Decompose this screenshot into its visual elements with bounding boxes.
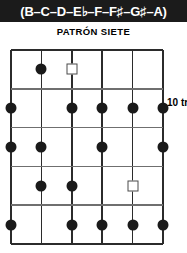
note-marker-f2-s5 (127, 103, 138, 114)
note-marker-f2-s1 (6, 103, 17, 114)
fret-line-0 (11, 49, 163, 51)
note-marker-f5-s1 (6, 219, 17, 230)
fret-line-3 (11, 166, 163, 168)
note-marker-f5-s5 (127, 219, 138, 230)
note-marker-f3-s6 (158, 142, 169, 153)
string-line-5 (132, 50, 134, 244)
note-marker-f5-s3 (66, 219, 77, 230)
note-marker-f2-s4 (97, 103, 108, 114)
fret-line-2 (11, 127, 163, 129)
note-marker-f5-s6 (158, 219, 169, 230)
fret-line-5 (11, 243, 163, 245)
note-marker-f3-s2 (36, 142, 47, 153)
root-note-marker-f1-s3 (66, 64, 77, 75)
note-marker-f5-s4 (97, 219, 108, 230)
fretboard-pattern-figure: (B–C–D–E♭–F–F♯–G♯–A) PATRÓN SIETE 10 tr (0, 0, 187, 253)
fret-line-1 (11, 88, 163, 90)
note-marker-f3-s4 (97, 142, 108, 153)
note-marker-f4-s3 (66, 180, 77, 191)
root-note-marker-f4-s5 (127, 180, 138, 191)
pattern-title: PATRÓN SIETE (0, 26, 187, 37)
scale-notes-text: (B–C–D–E♭–F–F♯–G♯–A) (20, 5, 167, 18)
fret-position-label: 10 tr (167, 97, 187, 108)
fret-line-4 (11, 204, 163, 206)
note-marker-f2-s3 (66, 103, 77, 114)
scale-notes-bar: (B–C–D–E♭–F–F♯–G♯–A) (0, 0, 187, 22)
note-marker-f3-s1 (6, 142, 17, 153)
note-marker-f1-s2 (36, 64, 47, 75)
note-marker-f4-s2 (36, 180, 47, 191)
string-line-3 (71, 50, 73, 244)
fretboard-grid (11, 50, 163, 244)
